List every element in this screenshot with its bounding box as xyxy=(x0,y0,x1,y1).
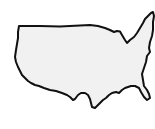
us-outline-canvas: Outline of the contiguous United States xyxy=(0,0,155,129)
us-map-icon xyxy=(0,0,155,129)
us-outline-shape xyxy=(15,12,154,108)
